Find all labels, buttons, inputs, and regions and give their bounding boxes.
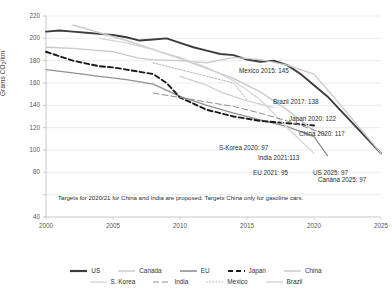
legend-item-india[interactable]: India bbox=[153, 278, 188, 285]
chart-legend: USCanadaEUJapanChinaS. KoreaIndiaMexicoB… bbox=[0, 267, 392, 285]
data-annotation: US 2025: 97 bbox=[313, 169, 348, 176]
legend-label: India bbox=[174, 278, 188, 285]
data-annotation: Brazil 2017: 138 bbox=[273, 98, 319, 105]
data-annotation: Japan 2020: 122 bbox=[289, 115, 336, 122]
y-tick-label: 180 bbox=[16, 57, 40, 64]
x-tick-label: 2000 bbox=[31, 222, 61, 229]
legend-label: EU bbox=[201, 267, 210, 274]
legend-item-eu[interactable]: EU bbox=[180, 267, 210, 274]
x-tick-label: 2025 bbox=[366, 222, 392, 229]
data-annotation: India 2021:113 bbox=[258, 154, 299, 161]
chart-footnote: Targets for 2020/21 for China and India … bbox=[58, 194, 303, 201]
x-tick-label: 2005 bbox=[98, 222, 128, 229]
data-annotation: Canana 2025: 97 bbox=[318, 176, 366, 183]
legend-line-swatch bbox=[70, 268, 87, 274]
legend-label: US bbox=[91, 267, 100, 274]
x-tick-label: 2015 bbox=[232, 222, 262, 229]
plot-area bbox=[0, 0, 392, 289]
legend-item-us[interactable]: US bbox=[70, 267, 100, 274]
legend-item-brazil[interactable]: Brazil bbox=[266, 278, 303, 285]
legend-label: Mexico bbox=[227, 278, 247, 285]
legend-row: S. KoreaIndiaMexicoBrazil bbox=[81, 278, 312, 285]
y-tick-label: 220 bbox=[16, 12, 40, 19]
legend-line-swatch bbox=[206, 279, 223, 285]
co2-emissions-line-chart: Grams CO2/km 4080100120140160180200220 2… bbox=[0, 0, 392, 289]
y-tick-label: 200 bbox=[16, 34, 40, 41]
legend-line-swatch bbox=[153, 279, 170, 285]
legend-line-swatch bbox=[228, 268, 245, 274]
legend-line-swatch bbox=[118, 268, 135, 274]
legend-label: Japan bbox=[249, 267, 266, 274]
y-tick-label: 100 bbox=[16, 146, 40, 153]
legend-line-swatch bbox=[284, 268, 301, 274]
x-tick-label: 2010 bbox=[165, 222, 195, 229]
legend-item-s-korea[interactable]: S. Korea bbox=[90, 278, 136, 285]
legend-item-japan[interactable]: Japan bbox=[228, 267, 266, 274]
series-line-eu bbox=[46, 70, 327, 156]
data-annotation: EU 2021: 95 bbox=[253, 169, 288, 176]
y-tick-label: 40 bbox=[16, 213, 40, 220]
y-tick-label: 140 bbox=[16, 101, 40, 108]
legend-label: Brazil bbox=[287, 278, 303, 285]
legend-line-swatch bbox=[266, 279, 283, 285]
data-annotation: S-Korea 2020: 97 bbox=[219, 144, 268, 151]
legend-item-china[interactable]: China bbox=[284, 267, 322, 274]
legend-label: China bbox=[305, 267, 322, 274]
data-annotation: China 2020: 117 bbox=[299, 130, 345, 137]
y-tick-label: 160 bbox=[16, 79, 40, 86]
data-annotation: Mexico 2015: 145 bbox=[239, 67, 289, 74]
legend-row: USCanadaEUJapanChina bbox=[61, 267, 330, 274]
legend-item-canada[interactable]: Canada bbox=[118, 267, 161, 274]
legend-line-swatch bbox=[90, 279, 107, 285]
legend-item-mexico[interactable]: Mexico bbox=[206, 278, 247, 285]
y-tick-label: 80 bbox=[16, 168, 40, 175]
y-tick-label: 120 bbox=[16, 124, 40, 131]
series-line-mexico bbox=[153, 63, 247, 100]
x-tick-label: 2020 bbox=[299, 222, 329, 229]
legend-label: Canada bbox=[139, 267, 161, 274]
legend-label: S. Korea bbox=[111, 278, 136, 285]
series-line-s-korea bbox=[100, 38, 314, 153]
legend-line-swatch bbox=[180, 268, 197, 274]
